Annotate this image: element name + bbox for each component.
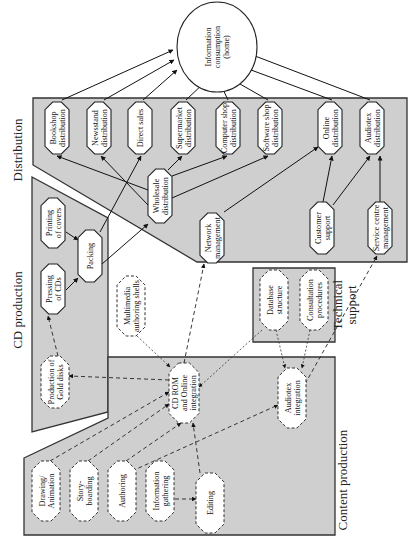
node-label: Audiotexdistribution bbox=[364, 109, 382, 147]
node-label-line: Story- bbox=[76, 480, 85, 501]
node-label-line: boarding bbox=[85, 476, 94, 505]
edge-online-dist-to-home bbox=[243, 67, 332, 100]
node-label-line: Bookshop bbox=[49, 111, 58, 144]
panel-label-content-production: Content production bbox=[335, 429, 350, 530]
node-label: Drawing/Animation bbox=[38, 473, 56, 508]
value-chain-diagram: Informationconsumption(home)Bookshopdist… bbox=[0, 0, 416, 556]
node-label: Customersupport bbox=[314, 212, 332, 244]
node-label-line: Network bbox=[204, 223, 213, 253]
node-authoring: Authoring bbox=[108, 461, 136, 521]
node-label-line: Audiotex bbox=[284, 383, 293, 413]
node-supermarket: Supermarketdistribution bbox=[171, 102, 195, 154]
node-label-line: Direct sales bbox=[136, 109, 145, 147]
node-label: Authoring bbox=[118, 474, 127, 508]
node-customer-support: Customersupport bbox=[310, 202, 334, 254]
node-label-line: and Online bbox=[180, 375, 189, 412]
edge-audiotex-dist-to-home bbox=[242, 51, 370, 100]
node-label-line: Computer shop bbox=[220, 103, 229, 153]
node-audiotex-integration: Audiotexintegration bbox=[278, 368, 306, 428]
node-network-mgmt: Networkmanagement bbox=[200, 213, 224, 263]
node-direct-sales: Direct sales bbox=[128, 102, 152, 154]
node-label-line: consumption bbox=[213, 26, 222, 68]
node-label-line: Editing bbox=[206, 491, 215, 515]
node-label-line: Customer bbox=[314, 212, 323, 244]
node-label-line: Online bbox=[322, 116, 331, 139]
node-online-dist: Onlinedistribution bbox=[318, 102, 342, 154]
node-label-line: Information bbox=[152, 471, 161, 510]
node-printing-covers: Printingof covers bbox=[41, 198, 65, 248]
node-label: Editing bbox=[206, 491, 215, 515]
node-storyboarding: Story-boarding bbox=[70, 461, 98, 521]
node-wholesale: Wholesaledistribution bbox=[148, 169, 172, 223]
node-label: Service centremanagement bbox=[372, 204, 390, 251]
node-label-line: distribution bbox=[100, 109, 109, 147]
node-label: Wholesaledistribution bbox=[152, 177, 170, 215]
node-label-line: Production of bbox=[47, 359, 56, 404]
node-label-line: Pressing bbox=[45, 275, 54, 303]
node-label: Audiotexintegration bbox=[284, 380, 302, 415]
node-label-line: Software shop bbox=[262, 104, 271, 151]
node-label: CD ROMand Onlineintegration bbox=[171, 375, 198, 412]
node-label-line: Database bbox=[266, 285, 275, 315]
node-label-line: distribution bbox=[161, 177, 170, 215]
node-label: Printingof covers bbox=[45, 208, 63, 238]
node-database-structure: Databasestructure bbox=[260, 270, 288, 330]
node-audiotex-dist: Audiotexdistribution bbox=[360, 102, 384, 154]
node-label-line: distribution bbox=[373, 109, 382, 147]
node-label-line: Consultation bbox=[306, 279, 315, 321]
panel-label-distribution: Distribution bbox=[10, 118, 25, 181]
node-label: Supermarketdistribution bbox=[175, 106, 193, 149]
node-label-line: authoring shells bbox=[132, 280, 141, 332]
node-label: Story-boarding bbox=[76, 476, 94, 505]
node-cdrom-online: CD ROMand Onlineintegration bbox=[169, 363, 199, 423]
node-label-line: Gold disks bbox=[56, 364, 65, 399]
node-newsstand: Newsstanddistribution bbox=[87, 102, 111, 154]
node-bookshop: Bookshopdistribution bbox=[45, 102, 69, 154]
node-label: Production ofGold disks bbox=[47, 359, 65, 404]
node-info-gathering: Informationgathering bbox=[146, 461, 174, 521]
node-computer-shop: Computer shopdistribution bbox=[216, 102, 240, 154]
node-label-line: Wholesale bbox=[152, 178, 161, 213]
node-label-line: distribution bbox=[184, 109, 193, 147]
node-gold-disks: Production ofGold disks bbox=[41, 356, 69, 408]
node-multimedia-shells: Multimediaauthoring shells bbox=[117, 276, 145, 336]
node-pressing-cds: Pressingof CDs bbox=[41, 264, 65, 314]
edge-newsstand-to-home bbox=[104, 60, 174, 100]
node-label: Informationgathering bbox=[152, 471, 170, 510]
node-software-shop: Software shopdistribution bbox=[258, 102, 282, 154]
panel-label-cd-production: CD production bbox=[10, 271, 25, 349]
node-label: Direct sales bbox=[136, 109, 145, 147]
node-label-line: of CDs bbox=[54, 277, 63, 300]
node-label-line: of covers bbox=[54, 208, 63, 238]
node-label: Bookshopdistribution bbox=[49, 109, 67, 147]
node-label-line: support bbox=[323, 215, 332, 240]
node-label-line: distribution bbox=[229, 109, 238, 147]
node-service-centre: Service centremanagement bbox=[368, 202, 392, 254]
node-label-line: Service centre bbox=[372, 204, 381, 251]
node-label: Newsstanddistribution bbox=[91, 109, 109, 147]
node-label-line: Printing bbox=[45, 210, 54, 236]
node-label-line: distribution bbox=[271, 109, 280, 147]
node-label-line: distribution bbox=[58, 109, 67, 147]
node-label-line: Drawing/ bbox=[38, 475, 47, 507]
node-label-line: (home) bbox=[222, 35, 231, 59]
node-label-line: Packing bbox=[86, 243, 95, 269]
node-label-line: procedures bbox=[315, 282, 324, 318]
node-label-line: Newsstand bbox=[91, 110, 100, 146]
node-label: Pressingof CDs bbox=[45, 275, 63, 303]
node-consultation: Consultationprocedures bbox=[300, 270, 328, 330]
node-label-line: Multimedia bbox=[123, 287, 132, 326]
node-label-line: distribution bbox=[331, 109, 340, 147]
node-label-line: CD ROM bbox=[171, 376, 180, 409]
node-label-line: Supermarket bbox=[175, 106, 184, 149]
node-packing: Packing bbox=[78, 230, 102, 282]
node-label-line: gathering bbox=[161, 476, 170, 507]
node-editing: Editing bbox=[196, 473, 224, 533]
node-label: Computer shopdistribution bbox=[220, 103, 238, 153]
node-label-line: Animation bbox=[47, 473, 56, 508]
node-label-line: integration bbox=[189, 375, 198, 410]
node-label: Consultationprocedures bbox=[306, 279, 324, 321]
node-label-line: Authoring bbox=[118, 474, 127, 508]
node-label: Software shopdistribution bbox=[262, 104, 280, 151]
node-label-line: structure bbox=[275, 285, 284, 314]
